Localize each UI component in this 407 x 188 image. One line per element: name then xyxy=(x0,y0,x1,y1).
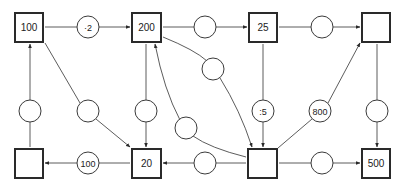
box-value: 25 xyxy=(257,22,269,33)
box-top-4[interactable] xyxy=(362,13,390,42)
box-bottom-4: 500 xyxy=(362,149,390,178)
operator-bottom3-top4: 800 xyxy=(309,100,331,122)
operator-top2-bottom2[interactable] xyxy=(135,100,157,122)
box-bottom-1[interactable] xyxy=(15,149,43,178)
box-top-2: 200 xyxy=(132,13,161,42)
box-top-3: 25 xyxy=(249,13,277,42)
arrow-puzzle-diagram: 100 200 25 20 500 ·2 xyxy=(0,0,407,188)
box-bottom-2: 20 xyxy=(132,149,161,178)
operator-top1-bottom2[interactable] xyxy=(77,100,99,122)
operator-bottom2-bottom1: 100 xyxy=(77,152,99,174)
box-value: 100 xyxy=(21,22,38,33)
operator-top2-top3[interactable] xyxy=(194,16,216,38)
box-value: 20 xyxy=(141,158,153,169)
operator-top2-bottom3[interactable] xyxy=(202,58,224,80)
operator-top3-top4[interactable] xyxy=(311,16,333,38)
operator-bottom3-top2[interactable] xyxy=(175,117,197,139)
edge-bottom3-top4 xyxy=(278,43,360,148)
operator-top1-top2: ·2 xyxy=(77,16,99,38)
operator-label: ·2 xyxy=(84,23,92,33)
operator-label: 800 xyxy=(312,107,327,117)
box-value: 200 xyxy=(138,22,155,33)
box-value: 500 xyxy=(368,158,385,169)
operator-top4-bottom4[interactable] xyxy=(366,100,388,122)
box-top-1: 100 xyxy=(15,13,43,42)
operator-top3-bottom3: :5 xyxy=(252,100,274,122)
operator-label: :5 xyxy=(259,107,267,117)
operator-label: 100 xyxy=(80,159,95,169)
edge-top1-bottom2 xyxy=(45,43,130,147)
operator-bottom3-bottom4[interactable] xyxy=(311,152,333,174)
operator-bottom1-top1[interactable] xyxy=(19,100,41,122)
box-bottom-3[interactable] xyxy=(248,149,277,178)
operator-bottom3-bottom2[interactable] xyxy=(194,152,216,174)
